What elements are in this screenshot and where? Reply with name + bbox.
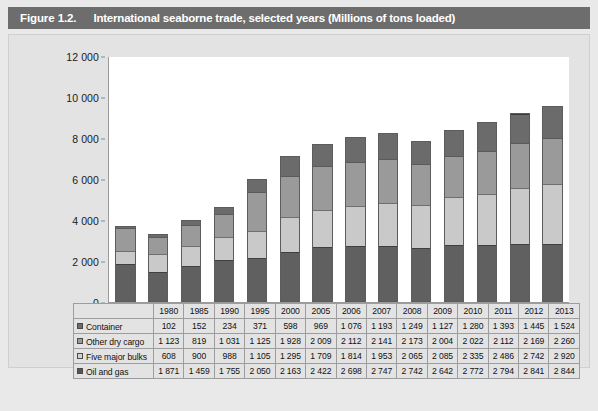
table-corner-cell xyxy=(74,304,154,319)
y-axis-tick-label: 8 000 xyxy=(72,133,99,145)
table-column-header: 2009 xyxy=(427,304,457,319)
figure-panel: 02 0004 0006 0008 00010 00012 000 198019… xyxy=(8,34,590,368)
bar-slot xyxy=(405,57,438,302)
table-header-row: 1980198519901995200020052006200720082009… xyxy=(74,304,580,319)
stacked-bar[interactable] xyxy=(214,207,234,302)
bar-segment-oil-and-gas xyxy=(378,246,398,302)
stacked-bar[interactable] xyxy=(312,144,332,302)
bar-segment-other-dry-cargo xyxy=(411,164,431,205)
legend-label: Five major bulks xyxy=(86,351,147,361)
table-cell: 2 022 xyxy=(458,334,488,349)
bar-segment-container xyxy=(411,141,431,164)
bar-segment-oil-and-gas xyxy=(510,244,530,302)
table-cell: 2 422 xyxy=(306,364,336,379)
stacked-bar[interactable] xyxy=(378,133,398,302)
stacked-bar[interactable] xyxy=(148,234,168,302)
bar-segment-other-dry-cargo xyxy=(345,162,365,206)
data-table-wrapper: 1980198519901995200020052006200720082009… xyxy=(73,303,580,379)
table-cell: 2 163 xyxy=(275,364,305,379)
bar-segment-container xyxy=(378,133,398,159)
stacked-bar[interactable] xyxy=(444,130,464,302)
bar-segment-five-major-bulks xyxy=(148,254,168,272)
stacked-bar[interactable] xyxy=(280,156,300,302)
table-column-header: 2000 xyxy=(275,304,305,319)
table-column-header: 1990 xyxy=(214,304,244,319)
table-row: Other dry cargo1 1238191 0311 1251 9282 … xyxy=(74,334,580,349)
table-cell: 371 xyxy=(245,319,275,334)
stacked-bar[interactable] xyxy=(247,179,267,302)
bar-segment-other-dry-cargo xyxy=(312,166,332,209)
table-cell: 234 xyxy=(214,319,244,334)
table-cell: 1 709 xyxy=(306,349,336,364)
table-cell: 2 112 xyxy=(488,334,518,349)
container-swatch xyxy=(77,323,83,329)
stacked-bar[interactable] xyxy=(345,137,365,302)
table-cell: 2 112 xyxy=(336,334,366,349)
data-table: 1980198519901995200020052006200720082009… xyxy=(73,303,580,379)
table-cell: 988 xyxy=(214,349,244,364)
table-column-header: 2013 xyxy=(549,304,580,319)
table-row: Five major bulks6089009881 1051 2951 709… xyxy=(74,349,580,364)
stacked-bar[interactable] xyxy=(411,141,431,302)
other-dry-cargo-swatch xyxy=(77,338,83,344)
table-cell: 2 141 xyxy=(366,334,396,349)
table-cell: 1 928 xyxy=(275,334,305,349)
table-cell: 1 105 xyxy=(245,349,275,364)
y-axis-tick-label: 10 000 xyxy=(66,92,99,104)
bar-segment-five-major-bulks xyxy=(477,194,497,245)
bar-segment-oil-and-gas xyxy=(444,245,464,302)
bar-segment-oil-and-gas xyxy=(312,247,332,302)
stacked-bar[interactable] xyxy=(510,113,530,302)
five-major-bulks-swatch xyxy=(77,353,83,359)
bar-segment-other-dry-cargo xyxy=(280,176,300,217)
bar-segment-container xyxy=(444,130,464,156)
stacked-bar[interactable] xyxy=(542,106,562,302)
bar-segment-other-dry-cargo xyxy=(510,143,530,187)
y-axis-tick-mark xyxy=(101,57,105,58)
table-cell: 1 755 xyxy=(214,364,244,379)
bar-segment-oil-and-gas xyxy=(542,244,562,302)
figure-container: Figure 1.2. International seaborne trade… xyxy=(0,0,598,411)
bar-slot xyxy=(208,57,241,302)
table-cell: 1 295 xyxy=(275,349,305,364)
legend-row-five-major-bulks: Five major bulks xyxy=(74,349,154,364)
table-cell: 2 486 xyxy=(488,349,518,364)
stacked-bar[interactable] xyxy=(181,220,201,302)
oil-and-gas-swatch xyxy=(77,368,83,374)
bar-segment-five-major-bulks xyxy=(411,205,431,248)
table-cell: 2 335 xyxy=(458,349,488,364)
bar-segment-container xyxy=(312,144,332,166)
table-cell: 2 841 xyxy=(519,364,549,379)
table-cell: 2 004 xyxy=(427,334,457,349)
bar-segment-other-dry-cargo xyxy=(148,237,168,254)
bar-slot xyxy=(273,57,306,302)
table-cell: 2 747 xyxy=(366,364,396,379)
bar-slot xyxy=(306,57,339,302)
table-cell: 152 xyxy=(184,319,214,334)
table-cell: 1 445 xyxy=(519,319,549,334)
bar-slot xyxy=(175,57,208,302)
table-column-header: 1985 xyxy=(184,304,214,319)
legend-row-oil-and-gas: Oil and gas xyxy=(74,364,154,379)
bar-segment-five-major-bulks xyxy=(115,251,135,263)
bar-slot xyxy=(372,57,405,302)
bar-slot xyxy=(470,57,503,302)
stacked-bar[interactable] xyxy=(477,122,497,302)
table-cell: 2 920 xyxy=(549,349,580,364)
table-cell: 1 123 xyxy=(154,334,184,349)
stacked-bar[interactable] xyxy=(115,226,135,302)
bar-segment-container xyxy=(477,122,497,151)
table-cell: 2 642 xyxy=(427,364,457,379)
table-cell: 1 076 xyxy=(336,319,366,334)
bar-segment-five-major-bulks xyxy=(181,246,201,266)
table-cell: 1 524 xyxy=(549,319,580,334)
figure-title-bar: Figure 1.2. International seaborne trade… xyxy=(8,7,590,29)
table-cell: 2 009 xyxy=(306,334,336,349)
bar-segment-five-major-bulks xyxy=(312,210,332,247)
bar-segment-container xyxy=(510,114,530,144)
table-cell: 2 260 xyxy=(549,334,580,349)
y-axis-tick-mark xyxy=(101,139,105,140)
y-axis-tick-label: 6 000 xyxy=(72,174,99,186)
bar-slot xyxy=(240,57,273,302)
figure-number: Figure 1.2. xyxy=(20,12,76,24)
